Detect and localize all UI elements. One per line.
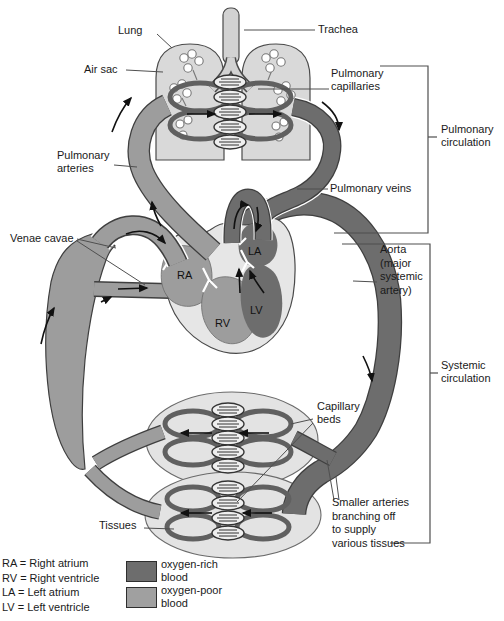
aorta-label: Aorta (major systemic artery) xyxy=(380,243,423,297)
oxygen-rich-label: oxygen-rich blood xyxy=(161,558,218,583)
legend-abbreviations: RA = Right atrium RV = Right ventricle L… xyxy=(2,556,99,614)
tissues-label: Tissues xyxy=(99,519,137,532)
rv-chamber-label: RV xyxy=(215,317,230,329)
venae-cavae-label: Venae cavae xyxy=(10,232,74,245)
legend-abbr-ra: RA = Right atrium xyxy=(2,556,99,571)
legend-abbr-lv: LV = Left ventricle xyxy=(2,600,99,615)
oxygen-poor-swatch xyxy=(126,587,157,608)
capillary-beds-label: Capillary beds xyxy=(317,400,360,426)
circulatory-system-diagram: Lung Trachea Air sac Pulmonary capillari… xyxy=(0,0,504,621)
legend-abbr-rv: RV = Right ventricle xyxy=(2,571,99,586)
lv-chamber-label: LV xyxy=(250,304,263,316)
pulmonary-capillaries-label: Pulmonary capillaries xyxy=(331,67,384,93)
pulmonary-arteries-label: Pulmonary arteries xyxy=(57,149,110,175)
smaller-arteries-label: Smaller arteries branching off to supply… xyxy=(332,496,409,550)
lung-label: Lung xyxy=(118,24,142,37)
pulmonary-veins-label: Pulmonary veins xyxy=(330,182,411,195)
ra-chamber-label: RA xyxy=(177,269,192,281)
inferior-vena-cava-trunk xyxy=(46,234,115,469)
pulmonary-circulation-label: Pulmonary circulation xyxy=(441,123,494,149)
venae-cavae-vessels xyxy=(46,234,170,512)
trachea-label: Trachea xyxy=(318,23,358,36)
la-chamber-label: LA xyxy=(248,245,261,257)
systemic-circulation-label: Systemic circulation xyxy=(441,359,491,385)
legend-abbr-la: LA = Left atrium xyxy=(2,585,99,600)
oxygen-rich-swatch xyxy=(126,561,157,582)
air-sac-label: Air sac xyxy=(84,63,118,76)
oxygen-poor-label: oxygen-poor blood xyxy=(161,584,222,609)
